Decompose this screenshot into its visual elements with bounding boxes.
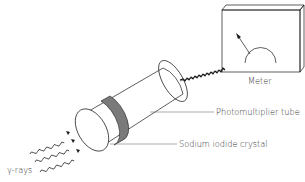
scintillation-counter-diagram: Meter Photomultiplier tube Sodium iodide…	[0, 0, 305, 182]
gamma-arrowhead-icon	[66, 131, 70, 135]
gamma-rays	[30, 131, 80, 173]
meter-label: Meter	[248, 76, 272, 86]
needle-arrowhead-icon	[236, 33, 241, 39]
gamma-arrowhead-icon	[76, 149, 80, 153]
meter	[222, 5, 304, 72]
coiled-cable	[180, 68, 225, 81]
photomultiplier-label: Photomultiplier tube	[216, 107, 300, 117]
photomultiplier-tube	[68, 56, 193, 157]
gamma-rays-label: γ-rays	[7, 165, 32, 175]
dial-arc-icon	[245, 48, 276, 64]
needle-icon	[238, 36, 250, 54]
crystal-label: Sodium iodide crystal	[179, 139, 268, 149]
gamma-arrowhead-icon	[71, 139, 75, 143]
